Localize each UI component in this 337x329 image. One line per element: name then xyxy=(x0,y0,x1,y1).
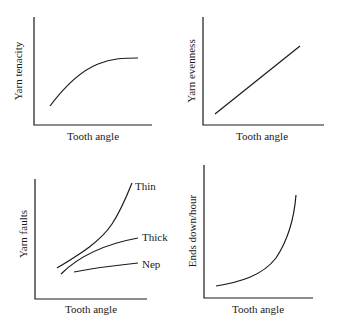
y-axis-label: Yarn evenness xyxy=(185,39,197,102)
x-axis-label: Tooth angle xyxy=(236,130,288,142)
ends-down-curve xyxy=(216,195,296,286)
figure: Tooth angle Yarn tenacity Tooth angle Ya… xyxy=(0,0,337,329)
panel-ends-down: Tooth angle Ends down/hour xyxy=(186,165,313,315)
tenacity-curve xyxy=(50,58,138,106)
y-axis-label: Ends down/hour xyxy=(186,194,198,267)
y-axis-label: Yarn faults xyxy=(17,210,29,258)
thin-label: Thin xyxy=(135,180,156,192)
axes xyxy=(204,165,313,298)
nep-label: Nep xyxy=(142,258,161,270)
panel-yarn-faults: Thin Thick Nep Tooth angle Yarn faults xyxy=(17,179,168,315)
x-axis-label: Tooth angle xyxy=(65,303,117,315)
thick-curve xyxy=(61,238,138,274)
thick-label: Thick xyxy=(142,231,168,243)
thin-curve xyxy=(57,183,132,268)
nep-curve xyxy=(74,263,138,272)
panel-yarn-tenacity: Tooth angle Yarn tenacity xyxy=(12,17,152,142)
x-axis-label: Tooth angle xyxy=(232,303,284,315)
axes xyxy=(34,17,152,125)
y-axis-label: Yarn tenacity xyxy=(12,41,24,100)
evenness-curve xyxy=(215,46,300,114)
x-axis-label: Tooth angle xyxy=(67,130,119,142)
panel-yarn-evenness: Tooth angle Yarn evenness xyxy=(185,17,324,142)
